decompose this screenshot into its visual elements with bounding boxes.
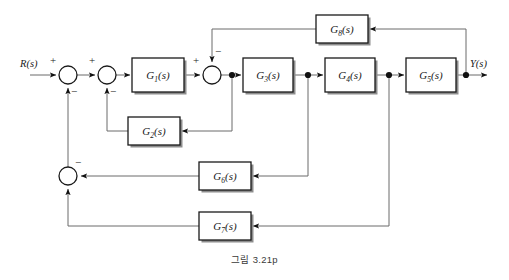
block-diagram: G1(s)G2(s)G3(s)G4(s)G5(s)G6(s)G7(s)G8(s)… — [0, 0, 509, 280]
takeoff-node-nodea — [229, 72, 235, 78]
sign-s1-1: − — [71, 85, 77, 97]
block-g8: G8(s) — [316, 15, 371, 46]
sign-s2-1: − — [110, 85, 116, 97]
block-g7: G7(s) — [199, 212, 254, 243]
block-g5: G5(s) — [406, 58, 459, 95]
block-g3: G3(s) — [243, 58, 296, 95]
wire-g8-to-sum3 — [212, 29, 316, 62]
block-g4: G4(s) — [325, 58, 378, 95]
summing-junction-s4: − — [59, 156, 81, 185]
wire-nodeA-to-g2 — [182, 75, 232, 131]
input-signal-label: R(s) — [19, 58, 38, 70]
output-signal-label: Y(s) — [470, 58, 487, 70]
figure-page: G1(s)G2(s)G3(s)G4(s)G5(s)G6(s)G7(s)G8(s)… — [0, 0, 509, 280]
sign-s4-0: − — [75, 156, 81, 168]
summing-junction-s3: +− — [193, 45, 221, 84]
sign-s3-0: + — [193, 54, 199, 66]
sign-s3-1: − — [215, 45, 221, 57]
takeoff-node-nodec — [386, 72, 392, 78]
takeoff-node-noded — [463, 72, 469, 78]
takeoff-node-nodeb — [305, 72, 311, 78]
feedback-loop-g7 — [68, 75, 389, 226]
wire-g7-to-sum4 — [68, 189, 199, 226]
sign-s1-0: + — [50, 54, 56, 66]
block-g2: G2(s) — [128, 117, 183, 148]
blocks-layer: G1(s)G2(s)G3(s)G4(s)G5(s)G6(s)G7(s)G8(s) — [128, 15, 459, 243]
block-g6: G6(s) — [199, 162, 254, 193]
sign-s2-0: + — [89, 54, 95, 66]
figure-caption: 그림 3.21p — [0, 252, 509, 266]
block-g1: G1(s) — [132, 58, 187, 95]
wire-nodeC-to-g7 — [253, 75, 389, 226]
